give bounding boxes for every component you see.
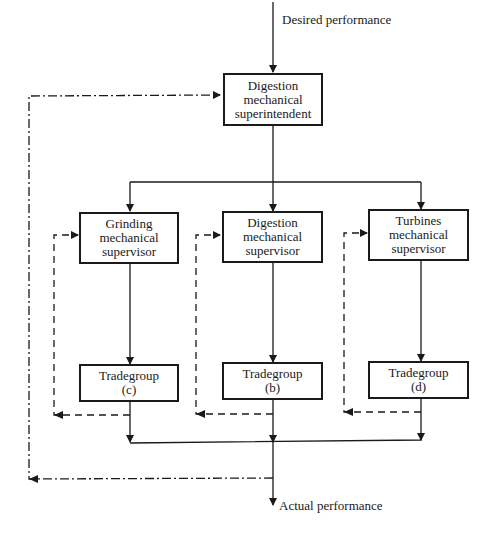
merge-line (130, 436, 421, 443)
box-line: Tradegroup (99, 369, 159, 383)
box-line: supervisor (391, 242, 445, 256)
box-line: (b) (265, 381, 280, 395)
tradegroup-c-box: Tradegroup (c) (79, 364, 179, 402)
box-line: supervisor (245, 244, 299, 258)
digestion-supervisor-box: Digestion mechanical supervisor (222, 211, 323, 263)
box-line: (d) (411, 380, 426, 394)
global-feedback-loop (29, 95, 273, 479)
box-line: Tradegroup (242, 367, 302, 381)
box-line: Turbines (396, 214, 442, 228)
tradegroup-d-box: Tradegroup (d) (368, 361, 469, 399)
box-line: Digestion (248, 79, 299, 93)
box-line: superintendent (235, 107, 312, 121)
superintendent-box: Digestion mechanical superintendent (223, 73, 323, 126)
actual-performance-label: Actual performance (279, 498, 383, 514)
box-line: (c) (122, 383, 136, 397)
box-line: Grinding (106, 217, 153, 231)
box-line: mechanical (99, 231, 158, 245)
turbines-supervisor-box: Turbines mechanical supervisor (368, 209, 469, 261)
box-line: mechanical (389, 228, 448, 242)
box-line: mechanical (243, 230, 302, 244)
desired-performance-label: Desired performance (282, 12, 391, 28)
box-line: Digestion (247, 216, 298, 230)
box-line: supervisor (102, 245, 156, 259)
tradegroup-b-box: Tradegroup (b) (222, 362, 323, 400)
box-line: Tradegroup (388, 366, 448, 380)
grinding-supervisor-box: Grinding mechanical supervisor (79, 212, 179, 264)
box-line: mechanical (243, 93, 302, 107)
